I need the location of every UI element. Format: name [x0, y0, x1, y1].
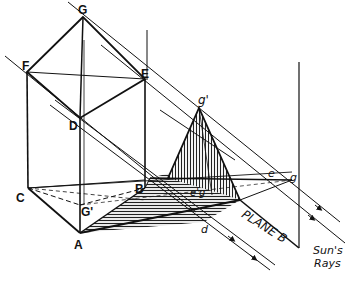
label-g-lower-prime: g' [198, 94, 209, 106]
label-c: C [16, 192, 25, 204]
sun-rays [5, 2, 345, 270]
shadow-projection-diagram: G F E D C B G' A g' e g d e'g PLANE B Su… [0, 0, 348, 282]
label-g-prime: G' [81, 206, 93, 218]
diagram-drawing [0, 0, 348, 282]
label-suns: Sun's [313, 245, 343, 256]
label-f: F [22, 60, 29, 72]
label-e-lower: e [268, 168, 275, 179]
label-a: A [74, 239, 83, 251]
label-d-lower: d [201, 224, 208, 235]
label-b: B [135, 183, 144, 195]
label-d-upper: D [69, 120, 78, 132]
label-e-upper: E [141, 68, 149, 80]
label-rays: Rays [314, 258, 341, 269]
label-g-lower: g [290, 172, 297, 183]
label-g-upper: G [78, 4, 87, 16]
label-eg: e'g [190, 188, 205, 198]
